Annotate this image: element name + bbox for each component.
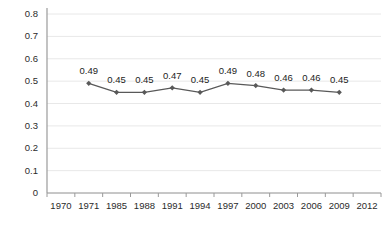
gridlines [47, 14, 381, 193]
x-tick-label: 1971 [75, 200, 103, 211]
y-tick-label: 0.4 [12, 99, 38, 109]
data-marker [253, 83, 258, 88]
x-tick-label: 2000 [242, 200, 270, 211]
data-point-label: 0.47 [158, 71, 186, 81]
data-marker [170, 85, 175, 90]
x-tick-label: 2006 [298, 200, 326, 211]
y-tick-label: 0.3 [12, 121, 38, 131]
x-tick-label: 2003 [270, 200, 298, 211]
x-tick-label: 2012 [353, 200, 381, 211]
data-point-label: 0.45 [103, 75, 131, 85]
data-point-label: 0.46 [270, 73, 298, 83]
x-tick-label: 1970 [47, 200, 75, 211]
data-marker [142, 90, 147, 95]
y-tick-label: 0.5 [12, 76, 38, 86]
data-marker [197, 90, 202, 95]
data-marker [309, 87, 314, 92]
y-tick-label: 0.2 [12, 143, 38, 153]
data-marker [114, 90, 119, 95]
data-point-label: 0.49 [214, 66, 242, 76]
line-chart: 0.80.70.60.50.40.30.20.10 19701971198519… [0, 0, 382, 230]
x-tick-label: 1985 [103, 200, 131, 211]
chart-canvas [0, 0, 382, 230]
x-tick-label: 1991 [158, 200, 186, 211]
data-point-label: 0.49 [75, 66, 103, 76]
axis-lines [47, 8, 381, 193]
y-tick-label: 0.8 [12, 9, 38, 19]
data-point-label: 0.45 [325, 75, 353, 85]
y-tick-label: 0.6 [12, 54, 38, 64]
data-point-label: 0.45 [186, 75, 214, 85]
data-marker [337, 90, 342, 95]
x-tick-label: 1997 [214, 200, 242, 211]
x-tick-label: 2009 [325, 200, 353, 211]
x-tick-label: 1988 [131, 200, 159, 211]
y-tick-label: 0.7 [12, 31, 38, 41]
y-tick-label: 0.1 [12, 166, 38, 176]
data-point-label: 0.46 [297, 73, 325, 83]
data-point-label: 0.45 [130, 75, 158, 85]
data-marker [281, 87, 286, 92]
x-tick-label: 1994 [186, 200, 214, 211]
x-tick-marks [47, 193, 381, 197]
y-tick-label: 0 [12, 188, 38, 198]
data-point-label: 0.48 [242, 69, 270, 79]
